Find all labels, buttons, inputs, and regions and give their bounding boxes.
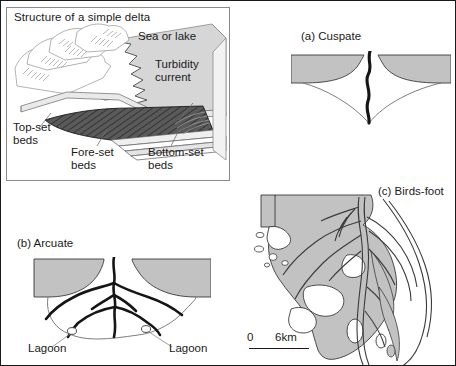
delta-structure-panel: Structure of a simple delta bbox=[6, 7, 230, 181]
arcuate-delta-diagram bbox=[26, 257, 211, 349]
scale-bar: 0 6km bbox=[247, 331, 327, 357]
top-set-beds-label: Top-set beds bbox=[13, 121, 51, 146]
lagoon-label-right: Lagoon bbox=[169, 342, 207, 354]
bottom-set-beds-label: Bottom-set beds bbox=[148, 146, 204, 171]
cuspate-label: (a) Cuspate bbox=[301, 30, 361, 42]
sea-or-lake-label: Sea or lake bbox=[138, 30, 196, 42]
arcuate-label: (b) Arcuate bbox=[17, 237, 73, 249]
lagoon-label-left: Lagoon bbox=[28, 342, 66, 354]
block-right-face bbox=[213, 38, 226, 160]
lagoon-ponds bbox=[68, 326, 151, 335]
fore-set-beds-label: Fore-set beds bbox=[71, 146, 114, 171]
cuspate-delta-diagram bbox=[291, 51, 451, 131]
turbidity-current-label: Turbidity current bbox=[155, 58, 199, 83]
scale-zero-label: 0 bbox=[247, 331, 253, 343]
delta-types-figure: Structure of a simple delta bbox=[0, 0, 456, 366]
scale-distance-label: 6km bbox=[275, 331, 297, 343]
scale-bar-rule bbox=[249, 348, 309, 349]
